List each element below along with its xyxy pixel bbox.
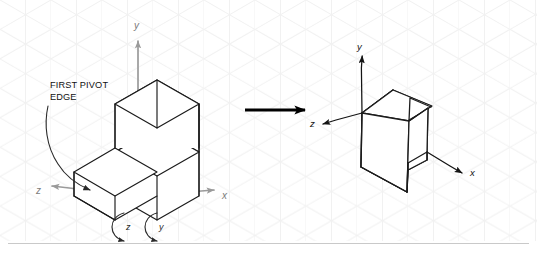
right-axis-label-z: z xyxy=(310,118,315,129)
diagram-canvas: FIRST PIVOT EDGE y z x z y y z x xyxy=(0,0,537,257)
footer-divider xyxy=(8,243,529,244)
diagram-artwork xyxy=(0,0,537,257)
right-axis-label-y: y xyxy=(357,41,362,52)
left-axis-label-z: z xyxy=(36,185,41,197)
right-axis-label-x: x xyxy=(470,167,475,178)
callout-label-line2: EDGE xyxy=(50,92,77,103)
left-solid xyxy=(74,80,199,220)
left-axis-label-x: x xyxy=(222,190,227,202)
rotation-label-z: z xyxy=(126,222,131,233)
callout-label-line1: FIRST PIVOT xyxy=(50,80,108,91)
left-axis-label-y: y xyxy=(134,20,139,32)
right-solid xyxy=(361,90,432,192)
rotation-label-y: y xyxy=(159,222,164,233)
